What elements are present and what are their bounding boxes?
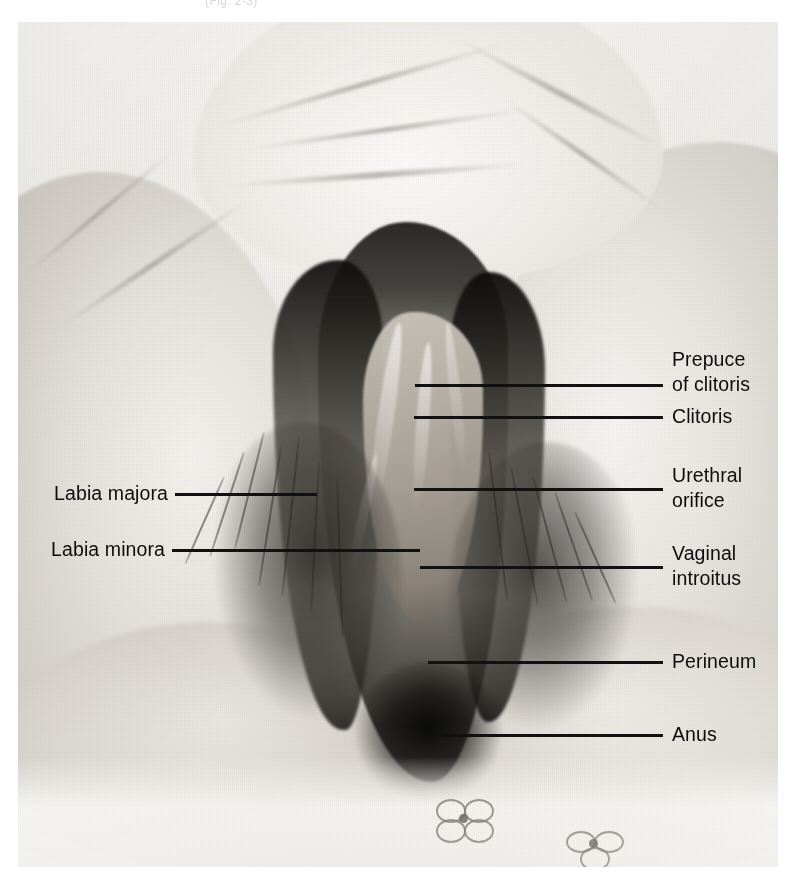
label-vaginal-introitus-line1: Vaginal	[672, 541, 736, 566]
leader-line-prepuce-of-clitoris	[415, 384, 663, 387]
label-labia-majora: Labia majora	[0, 481, 168, 506]
label-urethral-orifice-line2: orifice	[672, 488, 725, 513]
leader-line-vaginal-introitus	[420, 566, 663, 569]
leader-line-perineum	[428, 661, 663, 664]
leader-line-labia-majora	[175, 493, 317, 496]
label-perineum: Perineum	[672, 649, 756, 674]
label-prepuce-of-clitoris-line2: of clitoris	[672, 372, 750, 397]
leader-line-urethral-orifice	[414, 488, 663, 491]
label-urethral-orifice-line1: Urethral	[672, 463, 742, 488]
leader-line-labia-minora	[172, 549, 420, 552]
leader-line-clitoris	[414, 416, 663, 419]
label-prepuce-of-clitoris-line1: Prepuce	[672, 347, 745, 372]
annotation-layer: Labia majora Labia minora Prepuce of cli…	[0, 0, 800, 872]
label-labia-minora: Labia minora	[0, 537, 165, 562]
label-vaginal-introitus-line2: introitus	[672, 566, 741, 591]
figure-page: (Fig. 2-3)	[0, 0, 800, 872]
label-anus: Anus	[672, 722, 717, 747]
leader-line-anus	[440, 734, 663, 737]
label-clitoris: Clitoris	[672, 404, 732, 429]
